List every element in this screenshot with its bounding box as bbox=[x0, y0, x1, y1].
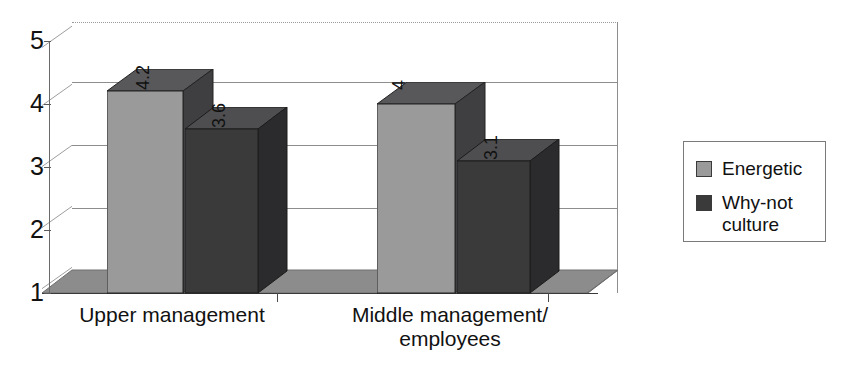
bar-value-label-whynot-middle: 3.1 bbox=[482, 135, 500, 160]
y-tick-label-4: 4 bbox=[10, 91, 44, 116]
y-tick-mark-2 bbox=[44, 230, 51, 231]
x-category-label-line1: Middle management/ bbox=[320, 303, 580, 327]
x-tick-separator-2 bbox=[548, 293, 549, 302]
legend-label-whynot-culture: Why-not culture bbox=[722, 192, 793, 237]
legend-item-whynot-culture[interactable]: Why-not culture bbox=[696, 192, 793, 237]
plot-floor-right-edge bbox=[587, 262, 621, 302]
y-tick-mark-5 bbox=[44, 41, 51, 42]
plot-right-edge bbox=[617, 22, 618, 271]
bar-value-label-energetic-upper: 4.2 bbox=[134, 65, 152, 90]
x-category-label-line2: employees bbox=[320, 327, 580, 351]
legend-swatch-energetic bbox=[696, 161, 712, 177]
legend-swatch-whynot-culture bbox=[696, 195, 712, 211]
y-tick-label-3: 3 bbox=[10, 154, 44, 179]
y-tick-mark-3 bbox=[44, 167, 51, 168]
y-tick-label-5: 5 bbox=[10, 28, 44, 53]
bar-whynot-upper-management bbox=[185, 107, 289, 294]
x-category-label-middle-management: Middle management/ employees bbox=[320, 303, 580, 351]
bar-value-label-whynot-upper: 3.6 bbox=[210, 103, 228, 128]
y-tick-label-1: 1 bbox=[10, 280, 44, 305]
bar-chart: 5 4 3 2 1 4.2 3.6 4 3.1 Upper management bbox=[0, 0, 849, 378]
chart-legend: Energetic Why-not culture bbox=[683, 141, 826, 242]
y-tick-mark-4 bbox=[44, 104, 51, 105]
x-tick-separator-1 bbox=[277, 293, 278, 302]
legend-label-whynot-line2: culture bbox=[722, 214, 793, 236]
y-tick-mark-1 bbox=[44, 293, 51, 294]
bar-whynot-middle-management bbox=[457, 139, 561, 294]
y-tick-label-2: 2 bbox=[10, 217, 44, 242]
legend-label-whynot-line1: Why-not bbox=[722, 192, 793, 214]
bar-value-label-energetic-middle: 4 bbox=[390, 80, 408, 90]
legend-label-energetic: Energetic bbox=[722, 158, 802, 180]
x-category-label-upper-management: Upper management bbox=[52, 303, 292, 327]
legend-item-energetic[interactable]: Energetic bbox=[696, 158, 802, 180]
